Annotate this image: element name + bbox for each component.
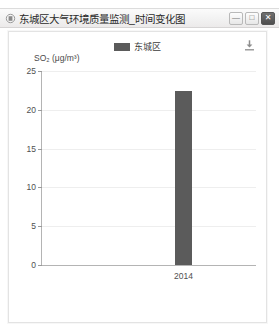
close-button[interactable]: ✕ [261,12,275,25]
plot-area: 0510152025 2014 [41,71,256,265]
x-axis-line [41,265,256,266]
y-axis-tick-mark [38,71,42,72]
y-axis-tick-label: 15 [27,144,36,154]
download-icon[interactable] [243,38,256,51]
window-titlebar[interactable]: 东城区大气环境质量监测_时间变化图 — □ ✕ [0,8,279,28]
y-axis-tick-label: 0 [31,260,36,270]
x-axis-tick-label: 2014 [174,271,193,281]
y-axis-tick-mark [38,226,42,227]
y-axis-tick-mark [38,265,42,266]
gridline [42,110,256,111]
y-axis-tick-mark [38,149,42,150]
gridline [42,226,256,227]
y-axis-tick-label: 25 [27,66,36,76]
gridline [42,149,256,150]
legend-label-dongchengqu[interactable]: 东城区 [134,40,161,53]
window-title: 东城区大气环境质量监测_时间变化图 [19,11,229,26]
chart-legend: 东城区 [9,40,266,53]
y-axis-tick-label: 10 [27,182,36,192]
chart-panel: 东城区 SO₂ (μg/m³) 0510152025 2014 [8,31,267,323]
y-axis-tick-mark [38,187,42,188]
maximize-button[interactable]: □ [245,12,259,25]
y-axis-unit-label: SO₂ (μg/m³) [34,53,80,63]
window-controls: — □ ✕ [229,12,275,25]
legend-swatch-dongchengqu[interactable] [114,43,130,51]
y-axis-line [41,71,42,265]
bar[interactable] [175,91,192,265]
y-axis-tick-label: 5 [31,221,36,231]
chart-window: 东城区大气环境质量监测_时间变化图 — □ ✕ 东城区 SO₂ (μg/m³) [0,0,279,332]
gridline [42,71,256,72]
gridline [42,187,256,188]
minimize-button[interactable]: — [229,12,243,25]
y-axis-tick-label: 20 [27,105,36,115]
y-axis-tick-mark [38,110,42,111]
window-app-icon [4,12,16,24]
